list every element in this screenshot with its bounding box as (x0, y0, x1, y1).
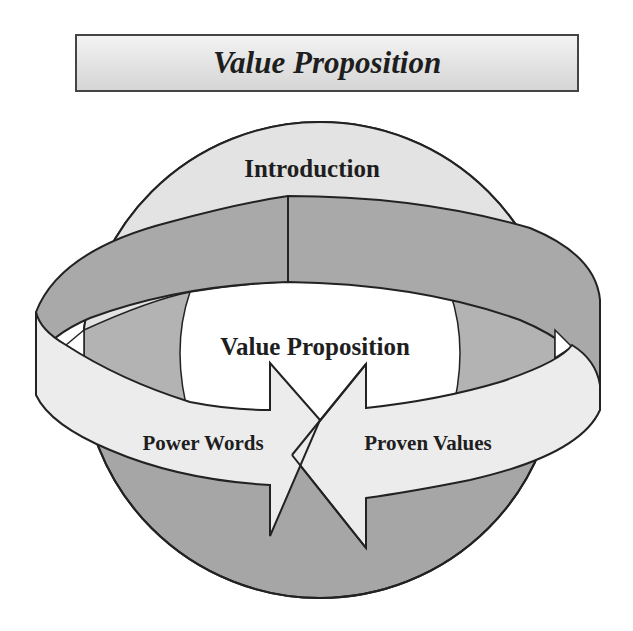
proven-values-label: Proven Values (364, 431, 491, 455)
introduction-label: Introduction (244, 155, 380, 182)
value-proposition-diagram: Introduction Value Proposition Power Wor… (0, 0, 633, 631)
center-label: Value Proposition (220, 333, 410, 360)
power-words-label: Power Words (142, 431, 263, 455)
